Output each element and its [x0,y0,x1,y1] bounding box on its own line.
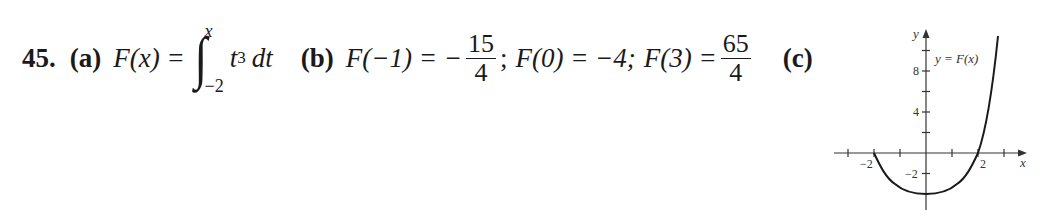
x-tick-label-neg2: −2 [860,157,873,171]
y-tick-label-neg2: −2 [905,167,918,181]
y-tick-label-4: 4 [913,105,919,119]
y-tick-label-8: 8 [913,64,919,78]
y-axis-arrow-icon [923,29,930,38]
graph-F: −2 2 −2 4 8 x y y = F(x) [0,0,1053,210]
y-axis-label: y [911,26,919,41]
x-tick-label-2: 2 [980,157,986,171]
curve-label: y = F(x) [933,51,978,66]
x-axis-label: x [1019,155,1026,170]
